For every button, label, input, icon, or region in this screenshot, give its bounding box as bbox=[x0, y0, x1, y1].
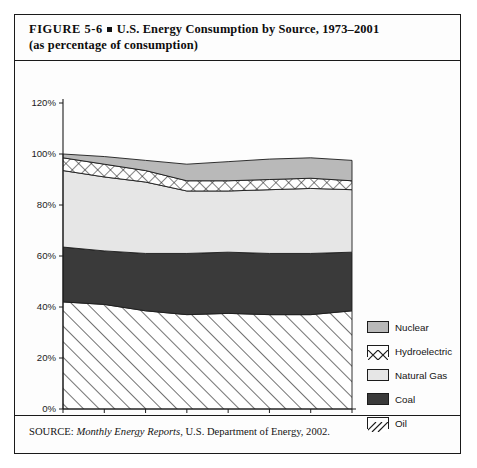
y-tick-label: 80% bbox=[37, 199, 57, 210]
figure-subtitle: (as percentage of consumption) bbox=[29, 38, 448, 54]
chart-axes bbox=[59, 103, 63, 409]
figure-container: FIGURE 5-6U.S. Energy Consumption by Sou… bbox=[14, 14, 461, 454]
y-tick-label: 0% bbox=[42, 403, 56, 414]
legend-item-nuclear: Nuclear bbox=[367, 315, 463, 339]
legend-item-natural-gas: Natural Gas bbox=[367, 363, 463, 387]
bullet-square-icon bbox=[107, 27, 112, 32]
plot-area: 19731977198119851989199319972001 0%20%40… bbox=[15, 61, 460, 417]
legend-swatch-nuclear bbox=[367, 321, 389, 333]
page-title: FIGURE 5-6U.S. Energy Consumption by Sou… bbox=[29, 22, 448, 38]
legend-item-coal: Coal bbox=[367, 387, 463, 411]
legend-label-natural-gas: Natural Gas bbox=[395, 370, 447, 381]
figure-number: FIGURE 5-6 bbox=[29, 22, 103, 36]
legend-item-hydroelectric: Hydroelectric bbox=[367, 339, 463, 363]
source-rest: , U.S. Department of Energy, 2002. bbox=[180, 426, 330, 437]
source-note: SOURCE: Monthly Energy Reports, U.S. Dep… bbox=[29, 426, 460, 437]
area-series-oil bbox=[63, 302, 352, 409]
y-tick-label: 120% bbox=[31, 97, 56, 108]
figure-title-text: U.S. Energy Consumption by Source, 1973–… bbox=[117, 22, 379, 36]
legend-swatch-coal bbox=[367, 393, 389, 405]
legend-label-coal: Coal bbox=[395, 394, 415, 405]
area-series-coal bbox=[63, 247, 352, 315]
y-tick-label: 40% bbox=[37, 301, 57, 312]
source-prefix: SOURCE: bbox=[29, 426, 74, 437]
legend-label-hydroelectric: Hydroelectric bbox=[395, 346, 452, 357]
y-tick-label: 100% bbox=[31, 148, 56, 159]
y-tick-label: 20% bbox=[37, 352, 57, 363]
legend-label-nuclear: Nuclear bbox=[395, 322, 429, 333]
chart-series-areas bbox=[63, 154, 352, 409]
y-axis-tick-labels: 0%20%40%60%80%100%120% bbox=[31, 97, 56, 414]
legend-swatch-natural-gas bbox=[367, 369, 389, 381]
legend-swatch-hydroelectric bbox=[367, 345, 389, 357]
figure-source-bar: SOURCE: Monthly Energy Reports, U.S. Dep… bbox=[15, 415, 460, 453]
source-publication: Monthly Energy Reports bbox=[76, 426, 180, 437]
y-tick-label: 60% bbox=[37, 250, 57, 261]
figure-title-bar: FIGURE 5-6U.S. Energy Consumption by Sou… bbox=[15, 15, 460, 61]
cross-hatch-icon bbox=[368, 350, 388, 360]
